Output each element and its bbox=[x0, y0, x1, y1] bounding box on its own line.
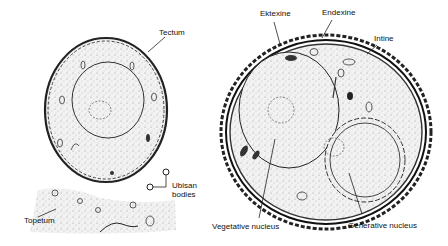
label-intine: Intine bbox=[374, 35, 394, 43]
label-ektexine: Ektexine bbox=[260, 10, 291, 18]
ubisch-bodies bbox=[147, 169, 169, 190]
label-tectum: Tectum bbox=[159, 29, 185, 37]
tapetum bbox=[30, 189, 176, 234]
right-pollen-grain bbox=[221, 35, 431, 229]
label-generative-nucleus: Generative nucleus bbox=[348, 222, 417, 230]
label-vegetative-nucleus: Vegetative nucleus bbox=[212, 223, 279, 231]
label-ubisch-bodies-line2: bodies bbox=[172, 191, 196, 199]
label-tapetum: Topetum bbox=[24, 217, 55, 225]
left-pollen-grain bbox=[45, 38, 167, 182]
label-endexine: Endexine bbox=[322, 9, 355, 17]
tectum-leader bbox=[148, 37, 165, 52]
